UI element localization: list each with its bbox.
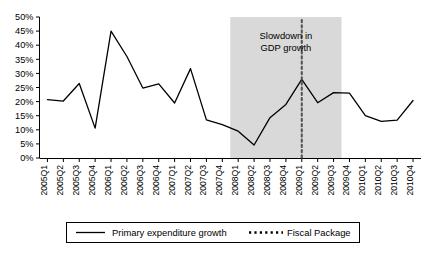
x-tick-label: 2006Q1	[103, 165, 113, 196]
x-tick-label: 2009Q4	[341, 165, 351, 196]
x-tick-label: 2007Q1	[167, 165, 177, 196]
x-tick-label: 2007Q3	[198, 165, 208, 196]
x-tick-label: 2008Q2	[246, 165, 256, 196]
x-tick-label: 2006Q2	[119, 165, 129, 196]
x-tick-label: 2006Q3	[135, 165, 145, 196]
y-tick-label: 10%	[15, 125, 33, 135]
y-axis-labels: 0%5%10%15%20%25%30%35%40%45%50%	[15, 12, 33, 163]
x-tick-label: 2006Q4	[151, 165, 161, 196]
x-tick-label: 2010Q3	[389, 165, 399, 196]
x-tick-label: 2008Q3	[262, 165, 272, 196]
y-tick-label: 15%	[15, 111, 33, 121]
y-tick-label: 5%	[20, 139, 33, 149]
x-tick-label: 2005Q4	[87, 165, 97, 196]
y-tick-label: 30%	[15, 69, 33, 79]
x-tick-label: 2010Q4	[405, 165, 415, 196]
chart-legend: Primary expenditure growth Fiscal Packag…	[67, 223, 360, 243]
x-tick-label: 2008Q4	[278, 165, 288, 196]
legend-label-primary-expenditure-growth: Primary expenditure growth	[112, 227, 227, 238]
x-tick-label: 2008Q1	[230, 165, 240, 196]
y-tick-label: 20%	[15, 97, 33, 107]
y-tick-label: 40%	[15, 40, 33, 50]
legend-label-fiscal-package: Fiscal Package	[287, 227, 351, 238]
series-line-primary-expenditure-growth	[47, 31, 413, 145]
y-axis-ticks	[36, 17, 40, 158]
x-tick-label: 2005Q3	[71, 165, 81, 196]
line-chart: Slowdown in GDP growth 2005Q12005Q22005Q…	[0, 0, 426, 257]
x-tick-label: 2010Q1	[357, 165, 367, 196]
y-tick-label: 25%	[15, 83, 33, 93]
y-tick-label: 50%	[15, 12, 33, 22]
x-tick-label: 2009Q2	[310, 165, 320, 196]
y-tick-label: 0%	[20, 153, 33, 163]
x-tick-label: 2005Q1	[39, 165, 49, 196]
x-tick-label: 2007Q4	[214, 165, 224, 196]
x-tick-label: 2007Q2	[183, 165, 193, 196]
y-tick-label: 45%	[15, 26, 33, 36]
slowdown-annotation-line2: GDP growth	[260, 42, 311, 53]
x-tick-label: 2005Q2	[55, 165, 65, 196]
x-tick-label: 2009Q1	[294, 165, 304, 196]
x-tick-label: 2010Q2	[373, 165, 383, 196]
x-axis-labels: 2005Q12005Q22005Q32005Q42006Q12006Q22006…	[39, 165, 415, 196]
y-tick-label: 35%	[15, 55, 33, 65]
slowdown-annotation-line1: Slowdown in	[260, 30, 313, 41]
chart-container: Slowdown in GDP growth 2005Q12005Q22005Q…	[0, 0, 426, 257]
x-tick-label: 2009Q3	[326, 165, 336, 196]
